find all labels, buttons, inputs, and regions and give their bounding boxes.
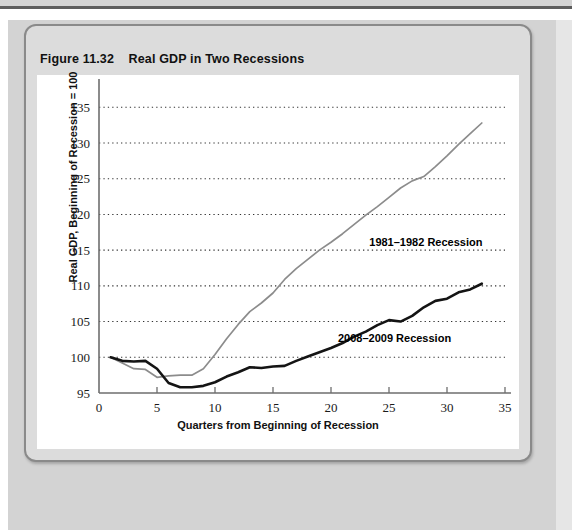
x-tick-label: 5: [154, 400, 161, 415]
x-tick-label: 30: [441, 400, 454, 415]
x-tick-label: 10: [209, 400, 222, 415]
page-right-margin: [556, 20, 572, 530]
page-top-margin: [0, 9, 572, 20]
chart-svg: 9510010511011512012513013505101520253035…: [37, 75, 519, 449]
figure-panel: Figure 11.32 Real GDP in Two Recessions …: [24, 24, 532, 462]
figure-title-text: Real GDP in Two Recessions: [129, 52, 305, 66]
y-tick-label: 100: [71, 350, 91, 365]
page-left-margin: [0, 20, 8, 530]
x-tick-label: 0: [96, 400, 103, 415]
plot-card: 9510010511011512012513013505101520253035…: [37, 75, 519, 449]
figure-caption: Figure 11.32 Real GDP in Two Recessions: [40, 52, 304, 66]
series-annotation-1: 1981–1982 Recession: [369, 236, 482, 248]
y-axis-title: Real GDP, Beginning of Recession = 100: [67, 47, 79, 307]
x-tick-label: 35: [499, 400, 512, 415]
y-tick-label: 95: [77, 386, 90, 401]
x-axis-title: Quarters from Beginning of Recession: [37, 419, 519, 431]
series-annotation-2: 2008–2009 Recession: [338, 332, 451, 344]
y-tick-label: 105: [71, 314, 91, 329]
x-tick-label: 20: [325, 400, 338, 415]
page-background: Figure 11.32 Real GDP in Two Recessions …: [0, 0, 572, 530]
x-tick-label: 15: [267, 400, 280, 415]
line-chart: 9510010511011512012513013505101520253035…: [37, 75, 519, 449]
x-tick-label: 25: [383, 400, 396, 415]
